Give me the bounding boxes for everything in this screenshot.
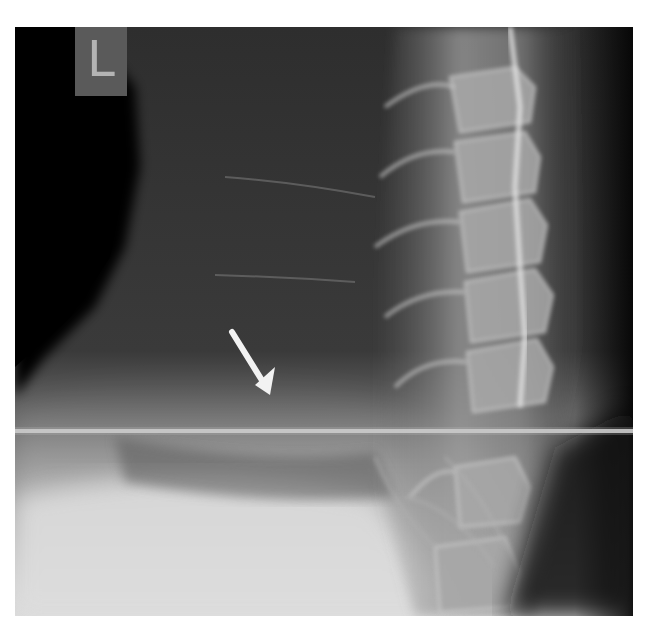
radiograph-graphic: [15, 27, 633, 616]
xray-image: L: [15, 27, 633, 616]
side-marker-l: L: [75, 27, 127, 96]
